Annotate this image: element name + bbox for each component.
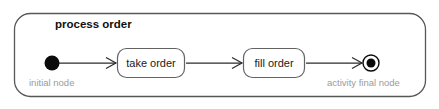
initial-node-annotation: initial node [29,77,74,88]
final-node-dot [367,59,376,68]
final-node-annotation: activity final node [327,77,400,88]
action-label: fill order [254,57,293,69]
activity-final-node [363,55,379,71]
action-node-take-order[interactable]: take order [118,49,185,78]
activity-title: process order [55,18,132,30]
action-label: take order [126,57,176,69]
action-node-fill-order[interactable]: fill order [244,49,305,78]
initial-node [45,56,60,71]
activity-diagram: process order take order fill order [0,0,439,109]
activity-diagram-canvas: process order take order fill order [0,0,439,109]
